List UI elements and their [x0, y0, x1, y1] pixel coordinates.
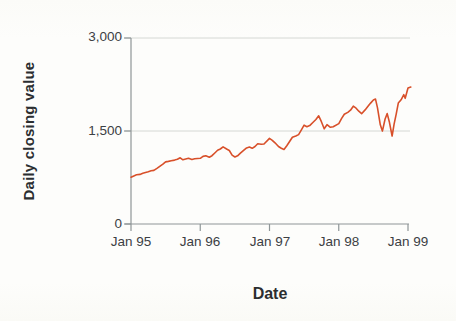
x-tick-label-jan97: Jan 97	[235, 234, 305, 249]
plot-area	[0, 0, 456, 321]
x-tick-label-jan98: Jan 98	[304, 234, 374, 249]
x-axis-title: Date	[200, 285, 340, 303]
x-tick-label-jan95: Jan 95	[96, 234, 166, 249]
price-line	[131, 87, 411, 177]
line-chart-figure: Daily closing value 3,000 1,500 0 Jan 95…	[0, 0, 456, 321]
x-tick-label-jan96: Jan 96	[165, 234, 235, 249]
x-tick-label-jan99: Jan 99	[373, 234, 443, 249]
